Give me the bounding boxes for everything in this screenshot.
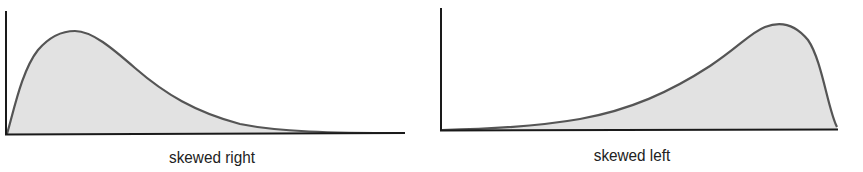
skewed-right-label: skewed right (169, 148, 255, 168)
skewed-left-plot (430, 0, 863, 150)
skewed-left-area (442, 24, 837, 130)
skewed-right-area (7, 31, 404, 134)
x-axis (440, 130, 838, 131)
skewed-left-chart: skewed left (430, 0, 863, 172)
skewed-right-plot (0, 0, 430, 150)
skewed-left-label: skewed left (594, 146, 671, 166)
skewed-right-chart: skewed right (0, 0, 430, 172)
